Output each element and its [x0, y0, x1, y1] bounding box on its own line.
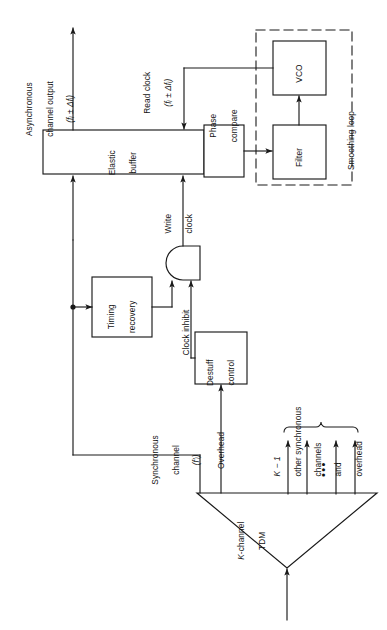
label-write-clock: Write clock [153, 201, 204, 257]
label-vco: VCO [284, 59, 315, 98]
label-k-channel-tdm: K-channel TDM [226, 510, 277, 582]
label-elastic-buffer: Elastic buffer [97, 137, 148, 199]
label-filter: Filter [284, 143, 315, 182]
block-diagram-canvas: Asynchronous channel output (fᵢ ± Δfᵢ) R… [0, 0, 387, 630]
label-read-clock: Read clock (fᵢ ± Δfᵢ) [132, 50, 183, 146]
label-overhead: Overhead [206, 416, 237, 494]
tdm-triangle [197, 493, 377, 568]
label-timing-recovery: Timing recovery [96, 290, 147, 354]
tdm-suffix-1: -channel [237, 522, 247, 555]
label-destuff-control: Destuff control [195, 347, 246, 409]
label-channel-ellipsis: ••• [317, 461, 329, 477]
label-async-channel-output: Asynchronous channel output (fᵢ ± Δfᵢ) [14, 59, 85, 169]
label-smoothing-loop: Smoothing loop [336, 97, 367, 193]
label-phase-compare: Phase compare [198, 100, 249, 162]
label-synchronous-channel: Synchronous channel (f′ᵢ) [140, 415, 211, 515]
